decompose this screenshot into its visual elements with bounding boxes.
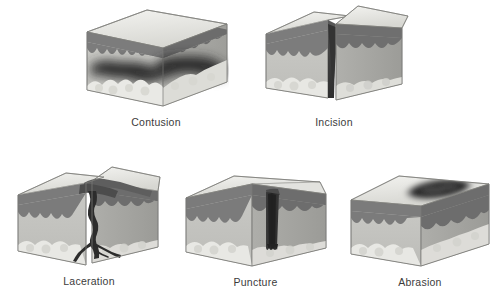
panel-incision: Incision: [258, 2, 410, 138]
contusion-illustration: [75, 2, 237, 120]
panel-label-puncture: Puncture: [178, 276, 333, 288]
incision-illustration: [258, 2, 410, 120]
panel-puncture: Puncture: [178, 168, 333, 300]
panel-label-abrasion: Abrasion: [345, 276, 495, 288]
panel-label-laceration: Laceration: [8, 275, 170, 287]
wound-types-figure: Contusion: [0, 0, 499, 307]
puncture-illustration: [178, 168, 333, 278]
panel-abrasion: Abrasion: [345, 168, 495, 300]
panel-laceration: Laceration: [8, 165, 170, 300]
panel-label-incision: Incision: [258, 116, 410, 128]
panel-contusion: Contusion: [75, 2, 237, 138]
panel-label-contusion: Contusion: [75, 116, 237, 128]
laceration-illustration: [8, 165, 170, 277]
abrasion-illustration: [345, 168, 495, 278]
